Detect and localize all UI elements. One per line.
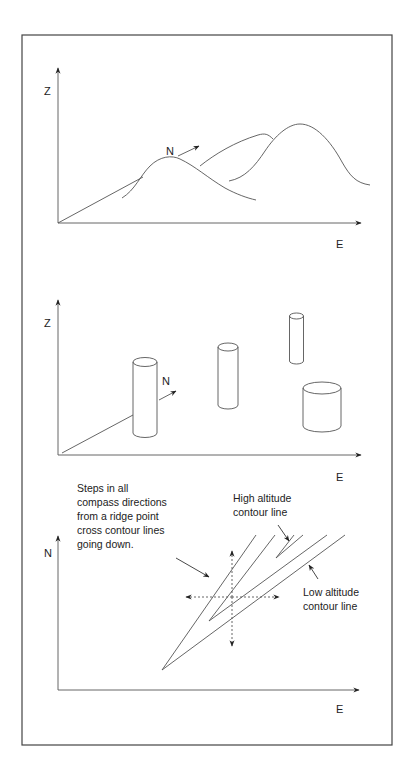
- cylinder-2: [218, 343, 238, 409]
- cylinder-1: [133, 358, 157, 438]
- cylinder-3: [290, 313, 304, 364]
- annotation-low-line: Low altitude: [303, 586, 359, 598]
- annotation-high-line: High altitude: [233, 492, 292, 504]
- annotation-low: Low altitude contour line: [303, 586, 359, 612]
- panel-top-z-label: Z: [44, 85, 51, 97]
- n-arrow: [178, 146, 199, 156]
- annotation-steps-line: Steps in all: [77, 482, 128, 494]
- n-axis: [58, 177, 143, 223]
- n-axis: [62, 415, 133, 453]
- panel-top-n-label: N: [166, 145, 174, 157]
- cylinder-4: [303, 382, 341, 432]
- panel-top-e-label: E: [336, 238, 343, 250]
- annotation-steps-line: from a ridge point: [77, 510, 159, 522]
- figure-frame: [22, 35, 392, 745]
- ridge-diagram-figure: Z N E Z N: [0, 0, 412, 778]
- annotation-low-line: contour line: [303, 600, 357, 612]
- annotation-high-line: contour line: [233, 506, 287, 518]
- low-pointer-arrow: [309, 565, 318, 579]
- panel-bottom-e-label: E: [336, 703, 343, 715]
- panel-middle-cylinders: [58, 300, 361, 455]
- annotation-steps-line: compass directions: [77, 496, 167, 508]
- panel-middle-z-label: Z: [44, 317, 51, 329]
- contour-high-left: [276, 535, 294, 558]
- contour-low-left: [162, 535, 256, 670]
- panel-bottom-n-label: N: [44, 547, 52, 559]
- panel-middle-n-label: N: [162, 375, 170, 387]
- hill-large: [229, 124, 370, 185]
- contour-mid-left: [209, 535, 275, 621]
- panel-top-surface: [58, 68, 370, 223]
- annotation-steps-line: cross contour lines: [77, 524, 165, 536]
- n-arrow: [159, 391, 176, 400]
- panel-middle-e-label: E: [336, 471, 343, 483]
- hill-ridge-back: [200, 134, 273, 166]
- contour-high-right: [276, 535, 303, 558]
- steps-pointer-arrow: [176, 558, 209, 577]
- annotation-steps: Steps in all compass directions from a r…: [77, 482, 167, 550]
- annotation-high: High altitude contour line: [233, 492, 292, 518]
- hill-small: [122, 157, 256, 200]
- annotation-steps-line: going down.: [77, 538, 134, 550]
- high-pointer-arrow: [278, 525, 289, 541]
